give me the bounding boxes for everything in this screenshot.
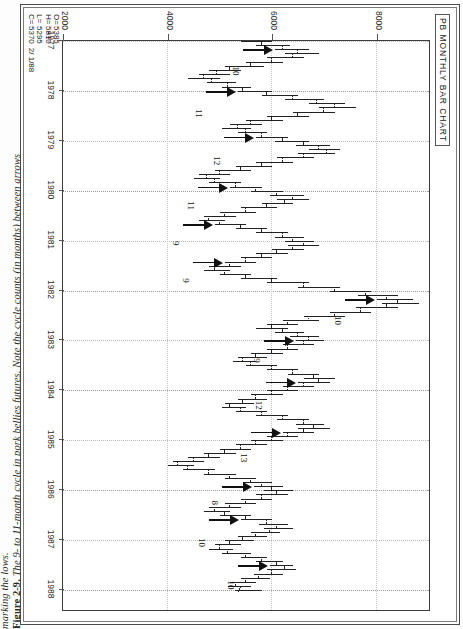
ohlc-close-tick	[292, 195, 293, 197]
ohlc-bar	[251, 191, 282, 192]
price-tick-label: 4000	[165, 11, 175, 30]
ohlc-bar	[168, 465, 194, 466]
ohlc-open-tick	[255, 443, 256, 445]
ohlc-open-tick	[224, 513, 225, 515]
ohlc-bar	[225, 478, 256, 479]
ohlc-bar	[296, 340, 325, 341]
ohlc-open-tick	[235, 185, 236, 187]
ohlc-open-tick	[242, 538, 243, 540]
ohlc-open-tick	[240, 410, 241, 412]
ohlc-bar	[358, 295, 397, 296]
ohlc-open-tick	[224, 451, 225, 453]
ohlc-close-tick	[240, 407, 241, 409]
ohlc-bar	[209, 549, 233, 550]
ohlc-open-tick	[203, 77, 204, 79]
ohlc-open-tick	[219, 173, 220, 175]
ohlc-close-tick	[219, 544, 220, 546]
ohlc-open-tick	[219, 222, 220, 224]
gridline-year	[63, 191, 429, 192]
ohlc-open-tick	[292, 372, 293, 374]
ohlc-close-tick	[282, 232, 283, 234]
ohlc-open-tick	[313, 376, 314, 378]
ohlc-close-tick	[214, 507, 215, 509]
bar-chart-screen: PB MONTHLY BAR CHART 8000600040002000 0 …	[20, 4, 460, 625]
ohlc-open-tick	[271, 60, 272, 62]
year-tick	[59, 389, 64, 390]
year-tick	[59, 190, 64, 191]
ohlc-open-tick	[208, 472, 209, 474]
ohlc-bar	[277, 157, 314, 158]
ohlc-bar	[285, 53, 319, 54]
ohlc-open-tick	[266, 93, 267, 95]
low-key: L=	[35, 14, 44, 26]
ohlc-open-tick	[292, 239, 293, 241]
ohlc-bar	[241, 41, 272, 42]
ohlc-open-tick	[224, 272, 225, 274]
chart-rotation-wrapper: PB MONTHLY BAR CHART 8000600040002000 0 …	[20, 4, 460, 625]
ohlc-bar	[222, 407, 246, 408]
ohlc-close-tick	[245, 207, 246, 209]
ohlc-bar	[236, 166, 273, 167]
ohlc-bar	[238, 91, 272, 92]
ohlc-open-tick	[245, 210, 246, 212]
ohlc-bar	[309, 103, 346, 104]
ohlc-open-tick	[287, 347, 288, 349]
ohlc-open-tick	[261, 135, 262, 137]
ohlc-close-tick	[297, 332, 298, 334]
ohlc-bar	[235, 590, 262, 591]
ohlc-open-tick	[282, 160, 283, 162]
ohlc-open-tick	[313, 426, 314, 428]
ohlc-open-tick	[282, 418, 283, 420]
ohlc-bar	[236, 228, 267, 229]
ohlc-open-tick	[271, 326, 272, 328]
ohlc-bar	[309, 149, 340, 150]
gridline-year	[63, 390, 429, 391]
ohlc-bar	[304, 378, 335, 379]
ohlc-open-tick	[255, 355, 256, 357]
year-tick-label: 1987	[46, 530, 56, 549]
gridline-price	[376, 41, 377, 610]
ohlc-close-tick	[240, 444, 241, 446]
ohlc-close-tick	[271, 569, 272, 571]
ohlc-open-tick	[282, 330, 283, 332]
ohlc-open-tick	[208, 455, 209, 457]
ohlc-open-tick	[214, 268, 215, 270]
ohlc-bar	[254, 486, 283, 487]
gridline-year	[63, 291, 429, 292]
cycle-count-label: 11	[194, 109, 204, 118]
open-value: 5385	[52, 26, 61, 44]
ohlc-open-tick	[193, 460, 194, 462]
ohlc-bar	[285, 241, 314, 242]
ohlc-open-tick	[188, 468, 189, 470]
ohlc-open-tick	[250, 64, 251, 66]
ohlc-bar	[241, 207, 278, 208]
ohlc-close-tick	[266, 519, 267, 521]
ohlc-open-tick	[276, 563, 277, 565]
ohlc-bar	[241, 519, 272, 520]
ohlc-open-tick	[271, 351, 272, 353]
ohlc-open-tick	[271, 280, 272, 282]
ohlc-bar	[199, 174, 230, 175]
ohlc-open-tick	[303, 143, 304, 145]
year-tick-label: 1982	[46, 280, 56, 299]
year-tick	[59, 140, 64, 141]
ohlc-bar	[330, 312, 372, 313]
ohlc-close-tick	[227, 82, 228, 84]
ohlc-open-tick	[282, 48, 283, 50]
ohlc-bar	[246, 365, 277, 366]
ohlc-close-tick	[271, 57, 272, 59]
quote-date: 2/ 1/88	[26, 48, 35, 72]
ohlc-open-tick	[229, 405, 230, 407]
ohlc-open-tick	[229, 476, 230, 478]
ohlc-bar	[377, 299, 414, 300]
ohlc-bar	[256, 328, 287, 329]
ohlc-bar	[222, 128, 251, 129]
ohlc-open-tick	[386, 297, 387, 299]
ohlc-close-tick	[318, 145, 319, 147]
ohlc-open-tick	[334, 106, 335, 108]
year-tick	[59, 539, 64, 540]
ohlc-open-tick	[250, 364, 251, 366]
ohlc-open-tick	[245, 276, 246, 278]
ohlc-bar	[356, 307, 398, 308]
gridline-price	[167, 41, 168, 610]
